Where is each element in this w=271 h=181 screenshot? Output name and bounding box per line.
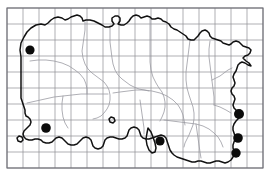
record-dot — [231, 148, 240, 157]
distribution-map-figure — [0, 0, 271, 181]
record-dot — [41, 123, 51, 133]
map-background — [0, 0, 271, 181]
record-dot — [25, 45, 34, 54]
record-dot — [234, 109, 244, 119]
record-dot — [155, 136, 164, 145]
map-canvas — [0, 0, 271, 181]
record-dot — [233, 133, 243, 143]
